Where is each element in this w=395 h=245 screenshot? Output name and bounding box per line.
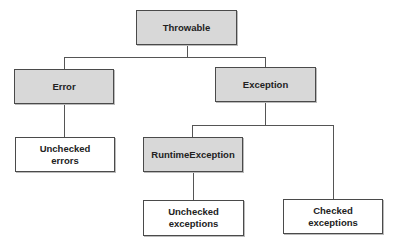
- connector-runtime-to-unchecked-exceptions: [193, 172, 194, 200]
- connector-exception-down: [265, 102, 266, 125]
- node-label: Checked exceptions: [308, 205, 358, 229]
- node-error: Error: [14, 69, 114, 104]
- connector-to-runtime-exception: [192, 125, 193, 137]
- connector-error-to-unchecked-errors: [64, 104, 65, 137]
- node-checked-exceptions: Checked exceptions: [283, 199, 383, 234]
- connector-to-error: [64, 57, 65, 69]
- node-throwable: Throwable: [136, 10, 237, 45]
- node-runtime-exception: RuntimeException: [143, 137, 243, 172]
- node-label: Error: [52, 81, 75, 93]
- node-unchecked-exceptions: Unchecked exceptions: [143, 200, 244, 236]
- connector-exception-branch: [192, 125, 333, 126]
- connector-to-checked-exceptions: [333, 125, 334, 199]
- node-label: RuntimeException: [151, 149, 234, 161]
- node-label: Unchecked exceptions: [168, 206, 219, 230]
- connector-throwable-down: [187, 45, 188, 57]
- node-unchecked-errors: Unchecked errors: [15, 137, 115, 172]
- connector-throwable-branch: [64, 57, 266, 58]
- connector-to-exception: [265, 57, 266, 67]
- node-label: Unchecked errors: [40, 143, 91, 167]
- node-exception: Exception: [215, 67, 316, 102]
- node-label: Exception: [243, 79, 288, 91]
- node-label: Throwable: [163, 22, 211, 34]
